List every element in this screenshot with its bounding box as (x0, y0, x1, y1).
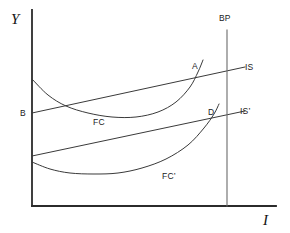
fc-curve (32, 60, 203, 118)
diagram-canvas (0, 0, 290, 233)
fc-label: FC (93, 118, 105, 127)
bp-label: BP (219, 14, 231, 23)
is-label: IS (245, 63, 253, 72)
is-fc-bp-diagram: Y I BP IS IS’ FC FC’ A B D (0, 0, 290, 233)
fc-prime-curve (32, 104, 219, 174)
fc-prime-label: FC’ (162, 172, 176, 181)
point-d-label: D (208, 108, 214, 117)
x-axis-label: I (263, 213, 268, 228)
point-a-label: A (192, 62, 198, 71)
is-prime-label: IS’ (240, 107, 251, 116)
curves-group (32, 30, 245, 206)
point-b-label: B (20, 109, 26, 118)
is-prime-curve (32, 111, 245, 156)
y-axis-label: Y (11, 12, 19, 27)
